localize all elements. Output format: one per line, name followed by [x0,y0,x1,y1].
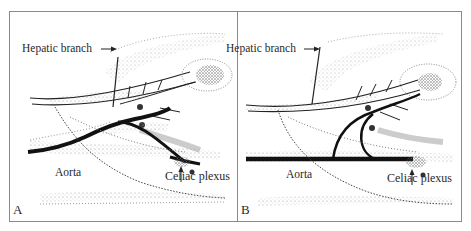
panel-letter: B [241,202,250,218]
panel-a: Hepatic branch Aorta Celiac plexus A [10,12,237,221]
panel-letter: A [13,202,22,218]
panel-b: Hepatic branch Aorta Celiac plexus B [238,12,461,221]
hepatic-branch-label: Hepatic branch [22,42,92,54]
aorta-label: Aorta [55,166,81,178]
celiac-plexus-label: Celiac plexus [387,171,452,186]
celiac-plexus-label: Celiac plexus [165,169,230,184]
hepatic-branch-label: Hepatic branch [226,42,296,54]
aorta-label: Aorta [286,168,312,180]
